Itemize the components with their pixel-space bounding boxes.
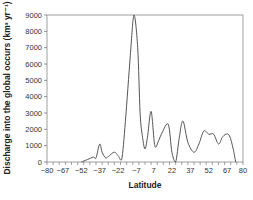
x-tick-label: −37 [93,166,106,175]
x-axis-ticks: −80−67−52−37−22−772237526780 [41,162,248,175]
y-tick-label: 2000 [25,125,42,134]
x-tick-label: −80 [41,166,54,175]
y-tick-label: 5000 [25,76,42,85]
x-tick-label: 7 [151,166,155,175]
x-tick-label: 67 [223,166,231,175]
x-tick-label: −52 [75,166,88,175]
x-tick-label: −67 [57,166,70,175]
y-tick-label: 1000 [25,141,42,150]
y-tick-label: 4000 [25,92,42,101]
y-tick-label: 3000 [25,109,42,118]
discharge-line [81,15,235,162]
x-tick-label: 22 [168,166,176,175]
y-tick-label: 7000 [25,43,42,52]
x-tick-label: 80 [239,166,247,175]
x-tick-label: −22 [112,166,125,175]
y-axis-ticks: 0100020003000400050006000700080009000 [25,11,47,167]
plot-frame [47,15,243,162]
x-tick-label: −7 [132,166,141,175]
discharge-latitude-chart: 0100020003000400050006000700080009000 −8… [0,0,253,200]
y-axis-title: Discharge into the global occurs (km³ yr… [2,1,12,174]
x-axis-title: Latitude [128,180,161,190]
x-tick-label: 52 [205,166,213,175]
y-tick-label: 9000 [25,11,42,20]
x-tick-label: 37 [186,166,194,175]
y-tick-label: 8000 [25,27,42,36]
y-tick-label: 6000 [25,60,42,69]
